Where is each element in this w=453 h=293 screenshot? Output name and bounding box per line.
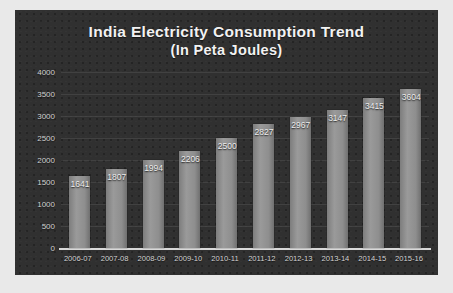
bar-value-label: 2967 [280,120,322,130]
x-axis-line [59,248,431,250]
bar-slot: 3147 [319,72,356,248]
chart-canvas: India Electricity Consumption Trend (In … [15,10,438,275]
bar-slot: 2827 [245,72,282,248]
bar[interactable] [400,89,421,248]
x-axis-tick-label: 2011-12 [242,254,282,263]
chart-title-line-1: India Electricity Consumption Trend [15,22,438,41]
x-axis-tick-label: 2013-14 [315,254,355,263]
x-axis-tick-label: 2006-07 [58,254,98,263]
bar-value-label: 2500 [206,141,248,151]
y-axis-tick-label: 1000 [37,200,55,209]
bar-slot: 2500 [208,72,245,248]
y-axis-tick-label: 0 [51,244,55,253]
chart-page: India Electricity Consumption Trend (In … [0,0,453,293]
x-axis-tick-label: 2008-09 [131,254,171,263]
y-axis-tick-label: 1500 [37,178,55,187]
y-axis-tick-label: 500 [42,222,55,231]
bar-value-label: 1994 [133,163,175,173]
bar-value-label: 3415 [353,101,395,111]
bar-slot: 3604 [392,72,429,248]
x-axis-tick-label: 2007-08 [95,254,135,263]
chart-title-line-2: (In Peta Joules) [15,41,438,60]
bar-slot: 1641 [61,72,98,248]
bar-slot: 2206 [171,72,208,248]
bar-value-label: 3147 [317,113,359,123]
x-axis-tick-label: 2009-10 [168,254,208,263]
chart-title: India Electricity Consumption Trend (In … [15,22,438,60]
x-axis-tick-label: 2014-15 [352,254,392,263]
y-axis-tick-label: 2500 [37,134,55,143]
x-axis-tick-label: 2015-16 [389,254,429,263]
bar-value-label: 3604 [390,92,432,102]
bar-value-label: 1807 [96,172,138,182]
bar[interactable] [143,160,164,248]
bar-value-label: 1641 [59,179,101,189]
y-axis-tick-label: 3500 [37,90,55,99]
bar-slot: 1994 [135,72,172,248]
bar[interactable] [216,138,237,248]
bar-slot: 2967 [282,72,319,248]
bar[interactable] [290,117,311,248]
y-axis-tick-label: 4000 [37,68,55,77]
x-axis-tick-label: 2010-11 [205,254,245,263]
bar-value-label: 2206 [169,154,211,164]
bar[interactable] [179,151,200,248]
bar[interactable] [327,110,348,248]
bar[interactable] [363,98,384,248]
y-axis-tick-label: 2000 [37,156,55,165]
x-axis-tick-label: 2012-13 [279,254,319,263]
y-axis-tick-label: 3000 [37,112,55,121]
bar-value-label: 2827 [243,127,285,137]
bar-slot: 1807 [98,72,135,248]
bar[interactable] [253,124,274,248]
bar-slot: 3415 [355,72,392,248]
plot-area: 05001000150020002500300035004000 1641180… [61,72,429,248]
